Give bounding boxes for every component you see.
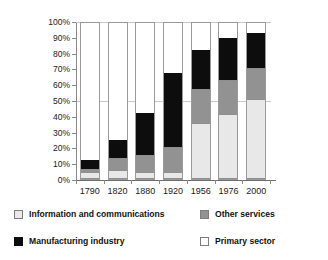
- x-tick-mark: [187, 180, 188, 184]
- bar-segment: [109, 171, 127, 179]
- bar-segment: [192, 90, 210, 124]
- bar-segment: [109, 23, 127, 140]
- bar-1976[interactable]: [218, 22, 238, 180]
- bar-segment: [81, 173, 99, 179]
- y-tick-label: 0%: [58, 176, 70, 185]
- bar-segment: [219, 23, 237, 38]
- bar-segment: [109, 140, 127, 159]
- y-tick-label: 70%: [53, 65, 70, 74]
- x-tick-mark: [159, 180, 160, 184]
- bars-layer: [76, 22, 270, 180]
- stacked-bar-chart: 0%10%20%30%40%50%60%70%80%90%100% 179018…: [0, 0, 328, 260]
- y-tick-label: 80%: [53, 49, 70, 58]
- y-tick-mark: [72, 133, 76, 134]
- bar-segment: [164, 173, 182, 179]
- y-tick-mark: [72, 164, 76, 165]
- bar-1956[interactable]: [191, 22, 211, 180]
- y-tick-label: 40%: [53, 113, 70, 122]
- bar-segment: [81, 160, 99, 169]
- bar-segment: [164, 23, 182, 73]
- bar-segment: [192, 50, 210, 91]
- bar-2000[interactable]: [246, 22, 266, 180]
- x-tick-mark: [270, 180, 271, 184]
- y-tick-mark: [72, 69, 76, 70]
- bar-segment: [247, 69, 265, 100]
- y-tick-label: 100%: [48, 18, 70, 27]
- legend-item-other-services[interactable]: Other services: [200, 209, 275, 219]
- legend-swatch-icon: [14, 210, 23, 219]
- bar-segment: [247, 23, 265, 33]
- x-tick-label: 2000: [239, 186, 273, 197]
- x-tick-mark: [76, 180, 77, 184]
- x-tick-mark: [215, 180, 216, 184]
- y-tick-mark: [72, 117, 76, 118]
- bar-segment: [136, 173, 154, 179]
- bar-1790[interactable]: [80, 22, 100, 180]
- y-tick-mark: [72, 38, 76, 39]
- bar-1880[interactable]: [135, 22, 155, 180]
- plot-wrapper: 0%10%20%30%40%50%60%70%80%90%100% 179018…: [0, 0, 328, 200]
- y-tick-mark: [72, 148, 76, 149]
- x-axis-labels: 1790182018801920195619762000: [76, 186, 276, 200]
- legend-label: Information and communications: [29, 209, 165, 219]
- chart-legend: Information and communications Manufactu…: [0, 206, 328, 260]
- y-tick-mark: [72, 54, 76, 55]
- legend-item-manufacturing-industry[interactable]: Manufacturing industry: [14, 236, 125, 246]
- bar-segment: [219, 38, 237, 81]
- legend-label: Other services: [215, 209, 275, 219]
- bar-segment: [247, 33, 265, 69]
- x-axis-line: [76, 180, 276, 181]
- legend-label: Manufacturing industry: [29, 236, 125, 246]
- bar-segment: [219, 81, 237, 115]
- bar-segment: [192, 23, 210, 50]
- bar-1920[interactable]: [163, 22, 183, 180]
- legend-swatch-icon: [200, 237, 209, 246]
- legend-swatch-icon: [200, 210, 209, 219]
- bar-segment: [109, 159, 127, 171]
- legend-item-information-and-communications[interactable]: Information and communications: [14, 209, 165, 219]
- y-tick-mark: [72, 85, 76, 86]
- bar-segment: [136, 113, 154, 155]
- x-tick-mark: [104, 180, 105, 184]
- legend-label: Primary sector: [215, 236, 275, 246]
- y-tick-label: 20%: [53, 144, 70, 153]
- bar-segment: [136, 156, 154, 173]
- y-tick-mark: [72, 101, 76, 102]
- bar-segment: [136, 23, 154, 113]
- y-tick-label: 50%: [53, 97, 70, 106]
- y-axis: 0%10%20%30%40%50%60%70%80%90%100%: [34, 16, 70, 186]
- bar-segment: [247, 100, 265, 179]
- x-tick-mark: [131, 180, 132, 184]
- bar-segment: [219, 115, 237, 179]
- bar-segment: [81, 23, 99, 160]
- bar-segment: [192, 124, 210, 179]
- y-tick-mark: [72, 22, 76, 23]
- bar-segment: [164, 148, 182, 173]
- bar-1820[interactable]: [108, 22, 128, 180]
- y-tick-label: 30%: [53, 128, 70, 137]
- y-tick-label: 10%: [53, 160, 70, 169]
- x-tick-mark: [242, 180, 243, 184]
- legend-swatch-icon: [14, 237, 23, 246]
- y-tick-label: 90%: [53, 34, 70, 43]
- legend-item-primary-sector[interactable]: Primary sector: [200, 236, 275, 246]
- y-tick-label: 60%: [53, 81, 70, 90]
- bar-segment: [164, 73, 182, 148]
